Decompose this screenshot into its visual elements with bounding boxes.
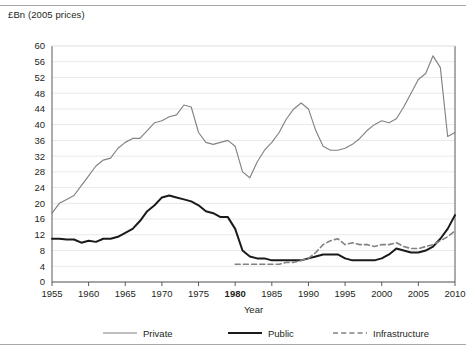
y-tick-label: 48	[34, 88, 45, 99]
x-tick-label: 1960	[78, 288, 99, 299]
y-tick-label: 28	[34, 166, 45, 177]
y-tick-label: 32	[34, 151, 45, 162]
y-axis-tick-labels: 04812162024283236404448525660	[34, 40, 45, 287]
y-tick-label: 12	[34, 229, 45, 240]
x-axis-title: Year	[244, 304, 263, 315]
y-tick-label: 4	[40, 261, 45, 272]
chart-legend: PrivatePublicInfrastructure	[103, 328, 429, 339]
x-tick-label: 1955	[41, 288, 62, 299]
x-tick-label: 1975	[188, 288, 209, 299]
data-series-group	[52, 56, 455, 264]
x-tick-label: 2000	[371, 288, 392, 299]
x-tick-label: 1965	[115, 288, 136, 299]
x-axis-tick-labels: 1955196019651970197519801985199019952000…	[41, 288, 465, 299]
line-chart: 04812162024283236404448525660 1955196019…	[0, 0, 466, 350]
x-tick-label: 1985	[261, 288, 282, 299]
y-tick-label: 36	[34, 135, 45, 146]
y-tick-label: 56	[34, 56, 45, 67]
y-tick-label: 24	[34, 182, 45, 193]
x-tick-label: 1980	[225, 288, 246, 299]
series-line-private	[52, 56, 455, 213]
x-tick-label: 1995	[335, 288, 356, 299]
gridlines-group	[52, 46, 455, 282]
legend-label-private: Private	[143, 328, 173, 339]
axis-lines	[52, 46, 455, 282]
y-tick-label: 20	[34, 198, 45, 209]
y-tick-label: 8	[40, 245, 45, 256]
x-axis-tick-marks	[52, 282, 455, 286]
y-tick-label: 52	[34, 72, 45, 83]
legend-label-infrastructure: Infrastructure	[373, 328, 429, 339]
chart-container: 04812162024283236404448525660 1955196019…	[0, 0, 466, 350]
y-tick-label: 16	[34, 213, 45, 224]
y-tick-label: 0	[40, 276, 45, 287]
legend-label-public: Public	[268, 328, 294, 339]
x-tick-label: 1970	[151, 288, 172, 299]
x-tick-label: 1990	[298, 288, 319, 299]
y-tick-label: 40	[34, 119, 45, 130]
y-tick-label: 44	[34, 103, 45, 114]
x-tick-label: 2005	[408, 288, 429, 299]
x-tick-label: 2010	[444, 288, 465, 299]
y-tick-label: 60	[34, 40, 45, 51]
